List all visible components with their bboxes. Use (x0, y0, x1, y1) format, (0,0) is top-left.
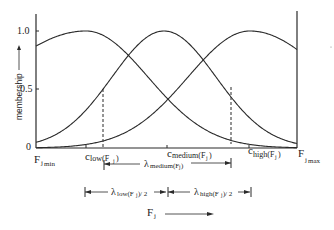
svg-text:λ: λ (194, 186, 199, 197)
svg-text:high(F: high(F (200, 190, 219, 198)
arrow-left-icon (168, 190, 174, 194)
curve-medium (36, 31, 297, 144)
svg-text:λ: λ (111, 186, 116, 197)
svg-text:j: j (153, 212, 156, 220)
svg-text:low(F: low(F (117, 190, 134, 198)
svg-text:j: j (40, 159, 43, 167)
svg-text:j: j (205, 155, 208, 161)
arrow-right-icon (207, 212, 214, 216)
svg-text:j: j (304, 156, 307, 164)
y-axis-label-group: membership (14, 45, 24, 120)
arrow-right-icon (244, 190, 250, 194)
membership-diagram: 1.0 0.5 0 membership F j min c low(F j )… (0, 0, 334, 230)
arrow-left-icon (85, 190, 91, 194)
svg-text:medium(F: medium(F (150, 162, 179, 170)
svg-text:): ) (278, 150, 281, 159)
span-lambda-medium: λ medium(F j ) (104, 158, 231, 170)
svg-text:): ) (209, 151, 212, 160)
arrow-right-icon (225, 161, 231, 165)
svg-text:min: min (44, 160, 55, 168)
svg-text:F: F (34, 153, 40, 165)
svg-text:/ 2: / 2 (225, 190, 233, 198)
y-axis-label: membership (14, 73, 24, 120)
fj-direction-label: F j (147, 206, 214, 220)
curve-low (36, 31, 297, 148)
svg-text:): ) (116, 154, 119, 163)
span-lambda-high-half: λ high(F j ) / 2 (168, 186, 251, 198)
svg-text:j: j (274, 154, 277, 160)
arrow-right-icon (160, 190, 166, 194)
curve-high (36, 31, 297, 148)
span-lambda-low-half: λ low(F j ) / 2 (85, 186, 166, 198)
c-low-label: c low(F j ) (85, 150, 119, 164)
svg-text:high(F: high(F (253, 150, 275, 159)
svg-text:λ: λ (144, 158, 149, 169)
svg-text:medium(F: medium(F (172, 151, 206, 160)
svg-text:j: j (112, 158, 115, 164)
y-tick-label-0: 0 (26, 141, 31, 152)
svg-text:max: max (308, 157, 321, 165)
fmin-label: F j min (34, 153, 55, 168)
c-medium-label: c medium(F j ) (167, 147, 212, 161)
svg-text:F: F (147, 206, 153, 218)
svg-text:low(F: low(F (90, 154, 110, 163)
y-tick-label-1: 1.0 (17, 25, 30, 36)
fmax-label: F j max (298, 147, 321, 165)
stray-mark (330, 46, 331, 47)
arrow-head-icon (17, 45, 21, 50)
svg-text:/ 2: / 2 (140, 190, 148, 198)
svg-text:): ) (181, 162, 184, 170)
svg-text:F: F (298, 147, 304, 159)
